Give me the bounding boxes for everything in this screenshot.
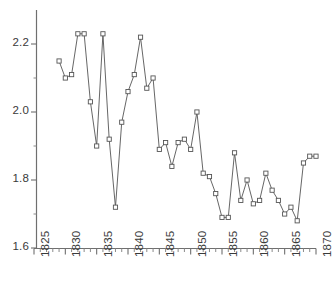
- data-point-marker: [157, 147, 161, 151]
- data-point-marker: [239, 198, 243, 202]
- x-tick-label: 1870: [321, 231, 333, 257]
- data-point-marker: [88, 100, 92, 104]
- data-point-marker: [258, 198, 262, 202]
- data-point-marker: [283, 212, 287, 216]
- data-point-marker: [270, 188, 274, 192]
- data-point-marker: [264, 171, 268, 175]
- data-point-marker: [245, 178, 249, 182]
- data-point-marker: [132, 73, 136, 77]
- data-point-marker: [120, 120, 124, 124]
- x-tick-label: 1860: [258, 231, 270, 257]
- data-series: [57, 32, 318, 223]
- data-point-marker: [251, 202, 255, 206]
- data-point-marker: [232, 151, 236, 155]
- data-point-marker: [301, 161, 305, 165]
- data-point-marker: [276, 198, 280, 202]
- data-point-marker: [138, 35, 142, 39]
- data-point-marker: [63, 76, 67, 80]
- series-line: [59, 34, 316, 221]
- series-markers: [57, 32, 318, 223]
- data-point-marker: [126, 90, 130, 94]
- data-point-marker: [70, 73, 74, 77]
- data-point-marker: [145, 86, 149, 90]
- data-point-marker: [182, 137, 186, 141]
- data-point-marker: [214, 192, 218, 196]
- x-tick-label: 1845: [164, 231, 176, 257]
- data-point-marker: [151, 76, 155, 80]
- data-point-marker: [207, 175, 211, 179]
- data-point-marker: [113, 205, 117, 209]
- axes: [31, 10, 316, 255]
- data-point-marker: [226, 215, 230, 219]
- data-point-marker: [176, 141, 180, 145]
- data-point-marker: [201, 171, 205, 175]
- x-tick-label: 1835: [102, 231, 114, 257]
- x-tick-label: 1830: [70, 231, 82, 257]
- data-point-marker: [220, 215, 224, 219]
- y-tick-label: 2.0: [12, 104, 29, 116]
- data-point-marker: [195, 110, 199, 114]
- data-point-marker: [289, 205, 293, 209]
- y-tick-label: 1.6: [12, 240, 29, 252]
- data-point-marker: [170, 164, 174, 168]
- x-tick-label: 1850: [196, 231, 208, 257]
- data-point-marker: [295, 219, 299, 223]
- y-axis-ticks: [31, 44, 37, 248]
- data-point-marker: [314, 154, 318, 158]
- data-point-marker: [308, 154, 312, 158]
- data-point-marker: [101, 32, 105, 36]
- y-tick-label: 2.2: [12, 36, 29, 48]
- data-point-marker: [107, 137, 111, 141]
- data-point-marker: [189, 147, 193, 151]
- x-tick-label: 1855: [227, 231, 239, 257]
- data-point-marker: [164, 141, 168, 145]
- data-point-marker: [76, 32, 80, 36]
- data-point-marker: [95, 144, 99, 148]
- data-point-marker: [82, 32, 86, 36]
- x-tick-label: 1825: [39, 231, 51, 257]
- data-point-marker: [57, 59, 61, 63]
- x-tick-label: 1840: [133, 231, 145, 257]
- x-tick-label: 1865: [290, 231, 302, 257]
- y-tick-label: 1.8: [12, 172, 29, 184]
